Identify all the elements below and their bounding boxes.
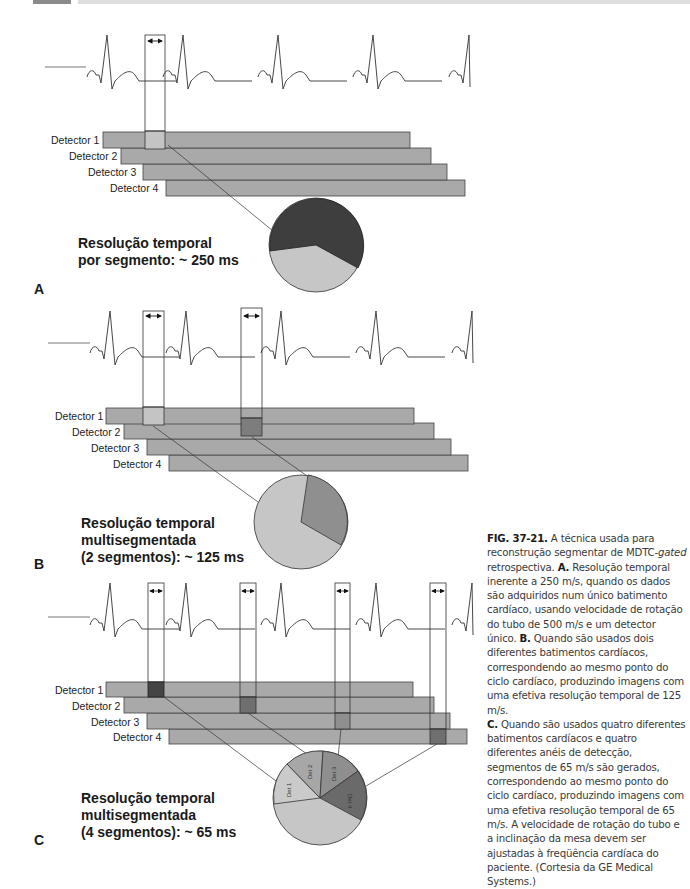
figure-caption: FIG. 37-21. A técnica usada para reconst… xyxy=(487,532,687,889)
caption-fig-label: FIG. 37-21. xyxy=(487,533,548,544)
svg-text:Detector 3: Detector 3 xyxy=(88,166,137,178)
segment-window-a1 xyxy=(145,131,165,149)
ecg-trace-a xyxy=(45,35,470,89)
svg-text:Detector 4: Detector 4 xyxy=(113,731,162,743)
svg-text:Detector 1: Detector 1 xyxy=(55,684,104,696)
resolution-text-c: Resolução temporal multisegmentada (4 se… xyxy=(81,790,236,841)
pie-c: Det 1 Det 2 Det 3 Det 4 xyxy=(273,751,367,845)
time-windows-b xyxy=(143,308,262,418)
resolution-text-b: Resolução temporal multisegmentada (2 se… xyxy=(81,515,244,566)
svg-text:Det 1: Det 1 xyxy=(286,782,292,797)
svg-text:Det 2: Det 2 xyxy=(307,764,313,779)
panel-letter-a: A xyxy=(34,281,44,297)
resolution-text-a: Resolução temporal por segmento: ~ 250 m… xyxy=(78,235,239,269)
svg-text:Detector 4: Detector 4 xyxy=(113,458,162,470)
panel-letter-b: B xyxy=(34,556,44,572)
svg-text:Detector 4: Detector 4 xyxy=(110,182,159,194)
ecg-trace-b xyxy=(48,311,473,365)
ecg-trace-c xyxy=(48,583,473,637)
svg-text:Detector 3: Detector 3 xyxy=(91,716,140,728)
svg-text:Det 3: Det 3 xyxy=(331,766,337,781)
pie-a xyxy=(269,198,364,292)
svg-text:Detector 2: Detector 2 xyxy=(72,700,121,712)
time-window-a xyxy=(145,35,165,131)
svg-text:Detector 1: Detector 1 xyxy=(51,134,100,146)
pie-b xyxy=(254,475,348,569)
panel-letter-c: C xyxy=(34,832,44,848)
svg-text:Det 4: Det 4 xyxy=(347,794,353,809)
svg-text:Detector 2: Detector 2 xyxy=(72,426,121,438)
svg-text:Detector 2: Detector 2 xyxy=(69,150,118,162)
svg-text:Detector 3: Detector 3 xyxy=(91,442,140,454)
svg-text:Detector 1: Detector 1 xyxy=(55,410,104,422)
